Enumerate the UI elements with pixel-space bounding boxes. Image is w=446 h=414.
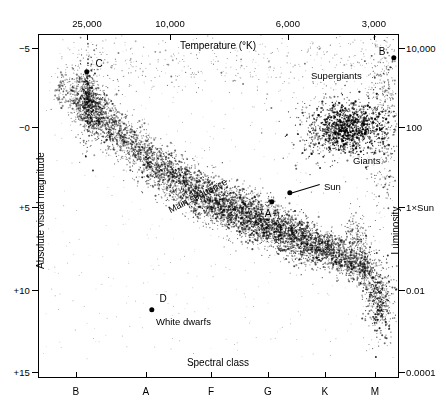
luminosity-label-4: 0.0001 — [406, 367, 436, 378]
hr-diagram: Temperature (°K) Spectral class Absolute… — [0, 0, 446, 414]
marked-point-label-A: A — [264, 208, 273, 219]
left-axis-title: Absolute visual magnitude — [35, 131, 46, 291]
top-axis-tick-label-0: 25,000 — [72, 18, 102, 29]
bottom-axis-tick — [325, 372, 326, 378]
annotation-white-dwarfs: White dwarfs — [155, 316, 212, 327]
annotation-supergiants: Supergiants — [310, 70, 363, 81]
top-axis-title: Temperature (°K) — [180, 40, 256, 51]
right-axis-tick — [399, 372, 405, 373]
left-axis-tick — [32, 127, 38, 128]
spectral-class-label-K: K — [322, 386, 329, 397]
spectral-class-label-M: M — [371, 386, 379, 397]
luminosity-label-3: 0.01 — [406, 285, 425, 296]
spectral-class-label-G: G — [264, 386, 272, 397]
top-axis-tick — [374, 34, 375, 40]
bottom-axis-tick — [76, 372, 77, 378]
right-axis-tick — [399, 127, 405, 128]
luminosity-label-2: 1×Sun — [406, 202, 434, 213]
top-axis-tick — [170, 34, 171, 40]
marked-point-label-D: D — [158, 293, 167, 304]
top-axis-tick-label-1: 10,000 — [155, 18, 185, 29]
annotation-sun: Sun — [323, 181, 342, 192]
left-axis-tick — [32, 372, 38, 373]
right-axis-tick — [399, 290, 405, 291]
left-axis-tick — [32, 48, 38, 49]
bottom-axis-tick — [375, 372, 376, 378]
spectral-class-label-A: A — [143, 386, 150, 397]
bottom-axis-title: Spectral class — [187, 357, 249, 368]
bottom-axis-tick — [146, 372, 147, 378]
magnitude-label-2: +5 — [0, 202, 30, 213]
annotation-giants: Giants — [352, 155, 381, 166]
magnitude-label-3: +10 — [0, 285, 30, 296]
top-axis-tick-label-2: 6,000 — [276, 18, 300, 29]
bottom-axis-tick — [211, 372, 212, 378]
marked-point-label-B: B — [378, 46, 387, 57]
right-axis-tick — [399, 48, 405, 49]
right-axis-title: Luminosity — [390, 161, 401, 301]
top-axis-tick — [87, 34, 88, 40]
magnitude-label-1: −0 — [0, 122, 30, 133]
left-axis-tick — [32, 290, 38, 291]
luminosity-label-0: 10,000 — [406, 43, 436, 54]
left-axis-tick — [32, 207, 38, 208]
magnitude-label-0: −5 — [0, 43, 30, 54]
spectral-class-label-B: B — [73, 386, 80, 397]
top-axis-tick — [288, 34, 289, 40]
spectral-class-label-F: F — [208, 386, 214, 397]
plot-frame — [38, 34, 399, 378]
magnitude-label-4: +15 — [0, 367, 30, 378]
marked-point-label-C: C — [94, 58, 103, 69]
top-axis-tick-label-3: 3,000 — [362, 18, 386, 29]
bottom-axis-tick — [268, 372, 269, 378]
right-axis-tick — [399, 207, 405, 208]
luminosity-label-1: 100 — [406, 122, 422, 133]
